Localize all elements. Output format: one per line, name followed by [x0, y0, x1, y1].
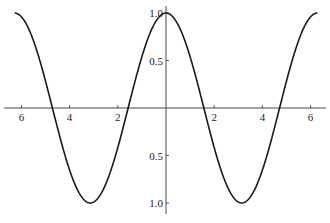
x-tick-label: 4 — [67, 111, 73, 123]
y-tick-label: 0.5 — [149, 55, 163, 67]
y-tick-label: 0.5 — [149, 150, 163, 162]
x-tick-label: 4 — [260, 111, 266, 123]
x-tick-label: 2 — [211, 111, 217, 123]
x-tick-label: 2 — [115, 111, 121, 123]
cosine-plot: 6422461.00.50.51.0 — [0, 0, 330, 223]
x-tick-label: 6 — [19, 111, 25, 123]
y-tick-label: 1.0 — [149, 197, 163, 209]
y-tick-label: 1.0 — [149, 7, 163, 19]
x-tick-label: 6 — [308, 111, 314, 123]
